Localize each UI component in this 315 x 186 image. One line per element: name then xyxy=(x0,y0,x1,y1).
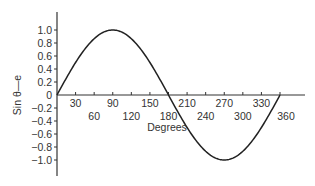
y-tick-label: 1.0 xyxy=(37,24,52,36)
y-tick-label: −0.2 xyxy=(31,102,52,114)
y-tick-label: 0.2 xyxy=(37,76,52,88)
x-tick-label: 240 xyxy=(197,110,215,122)
x-tick-label: 210 xyxy=(178,97,196,109)
y-tick-label: 0 xyxy=(46,89,52,101)
y-axis-label: Sin θ—e xyxy=(11,75,23,115)
y-tick-label: 0.6 xyxy=(37,50,52,62)
x-tick-label: 120 xyxy=(123,110,141,122)
x-axis-label: Degrees xyxy=(147,121,187,133)
x-tick-label: 300 xyxy=(234,110,252,122)
x-tick-label: 330 xyxy=(253,97,271,109)
y-tick-label: −0.6 xyxy=(31,128,52,140)
y-ticks: 1.00.80.60.40.20−0.2−0.4−0.6−0.8−1.0 xyxy=(31,24,57,166)
x-tick-label: 270 xyxy=(215,97,233,109)
y-tick-label: 0.4 xyxy=(37,63,52,75)
y-tick-label: 0.8 xyxy=(37,37,52,49)
y-tick-label: −0.4 xyxy=(31,115,52,127)
x-ticks: 309015021027033060120180240300360 xyxy=(70,92,295,122)
y-tick-label: −1.0 xyxy=(31,154,52,166)
sine-chart: 1.00.80.60.40.20−0.2−0.4−0.6−0.8−1.0 309… xyxy=(0,0,315,186)
y-tick-label: −0.8 xyxy=(31,141,52,153)
x-tick-label: 90 xyxy=(107,97,119,109)
x-tick-label: 60 xyxy=(88,110,100,122)
x-tick-label: 360 xyxy=(277,110,295,122)
x-tick-label: 30 xyxy=(70,97,82,109)
x-tick-label: 150 xyxy=(141,97,159,109)
